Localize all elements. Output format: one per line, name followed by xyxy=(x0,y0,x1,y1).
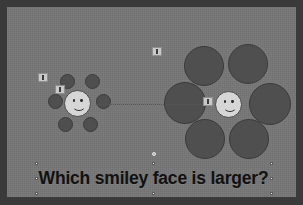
handle-top-right[interactable] xyxy=(270,162,273,165)
smiley-face-right[interactable] xyxy=(215,91,242,118)
large-surround-group-circle-6[interactable] xyxy=(229,119,269,159)
marker-glyph-icon xyxy=(207,99,209,104)
handle-bottom-left[interactable] xyxy=(35,192,38,195)
small-surround-group-circle-2[interactable] xyxy=(85,74,100,89)
small-surround-group-circle-4[interactable] xyxy=(96,94,111,109)
small-surround-group-circle-3[interactable] xyxy=(48,94,63,109)
handle-middle-left[interactable] xyxy=(35,177,38,180)
annotation-marker-2[interactable] xyxy=(55,85,65,94)
handle-top-center[interactable] xyxy=(152,162,155,165)
handle-middle-right[interactable] xyxy=(270,177,273,180)
handle-top-left[interactable] xyxy=(35,162,38,165)
comparison-connector-line[interactable] xyxy=(96,104,212,105)
smiley-mouth xyxy=(223,104,237,112)
smiley-eye-right xyxy=(80,99,82,102)
annotation-marker-1[interactable] xyxy=(38,73,48,82)
annotation-marker-4[interactable] xyxy=(203,97,213,106)
marker-glyph-icon xyxy=(42,75,44,80)
large-surround-group-circle-2[interactable] xyxy=(228,44,268,84)
large-surround-group-circle-1[interactable] xyxy=(184,46,224,86)
caption-text: Which smiley face is larger? xyxy=(36,163,271,193)
handle-bottom-right[interactable] xyxy=(270,192,273,195)
small-surround-group-circle-6[interactable] xyxy=(83,117,98,132)
rotation-handle[interactable] xyxy=(152,152,156,156)
slide-canvas[interactable]: Which smiley face is larger? xyxy=(7,7,296,197)
large-surround-group-circle-3[interactable] xyxy=(164,82,206,124)
smiley-face-left[interactable] xyxy=(64,90,91,117)
annotation-marker-3[interactable] xyxy=(152,47,162,56)
marker-glyph-icon xyxy=(156,49,158,54)
caption-textbox[interactable]: Which smiley face is larger? xyxy=(36,163,271,193)
presentation-editor-window: Which smiley face is larger? xyxy=(0,0,303,205)
smiley-eye-right xyxy=(231,100,233,103)
smiley-eye-left xyxy=(73,99,75,102)
marker-glyph-icon xyxy=(59,87,61,92)
smiley-eye-left xyxy=(224,100,226,103)
large-surround-group-circle-4[interactable] xyxy=(249,83,291,125)
smiley-mouth xyxy=(72,103,86,111)
small-surround-group-circle-5[interactable] xyxy=(58,117,73,132)
large-surround-group-circle-5[interactable] xyxy=(185,119,225,159)
handle-bottom-center[interactable] xyxy=(152,192,155,195)
